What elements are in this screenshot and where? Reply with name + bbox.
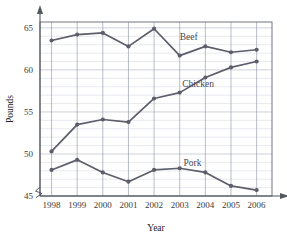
data-point — [203, 170, 207, 174]
data-point — [101, 170, 105, 174]
data-point — [101, 31, 105, 35]
data-point — [75, 158, 79, 162]
y-axis-title: Pounds — [5, 95, 15, 123]
series-labels: BeefChickenPork — [180, 32, 214, 168]
y-tick-label: 45 — [24, 191, 34, 201]
x-tick-label: 1999 — [68, 200, 87, 210]
x-tick-labels: 199819992000200120022003200420052006 — [43, 200, 267, 210]
chart-canvas: 4550556065 19981999200020012002200320042… — [0, 0, 287, 237]
series-label-pork: Pork — [184, 158, 202, 168]
data-point — [178, 166, 182, 170]
y-tick-label: 60 — [24, 65, 34, 75]
data-point — [126, 120, 130, 124]
data-point — [203, 44, 207, 48]
data-point — [152, 168, 156, 172]
data-point — [229, 65, 233, 69]
data-point — [49, 168, 53, 172]
y-tick-label: 50 — [24, 149, 34, 159]
data-point — [126, 180, 130, 184]
data-point — [255, 188, 259, 192]
x-tick-label: 2000 — [94, 200, 113, 210]
x-tick-label: 2005 — [222, 200, 241, 210]
data-point — [229, 50, 233, 54]
data-point — [255, 59, 259, 63]
data-point — [126, 44, 130, 48]
series-label-chicken: Chicken — [182, 79, 214, 89]
x-tick-label: 2004 — [196, 200, 215, 210]
x-tick-label: 1998 — [43, 200, 62, 210]
y-tick-labels: 4550556065 — [24, 23, 34, 201]
x-tick-label: 2006 — [248, 200, 267, 210]
data-point — [75, 122, 79, 126]
data-point — [178, 54, 182, 58]
data-point — [49, 38, 53, 42]
data-point — [101, 117, 105, 121]
line-chart: 4550556065 19981999200020012002200320042… — [0, 0, 287, 237]
x-tick-label: 2001 — [119, 200, 137, 210]
data-point — [152, 27, 156, 31]
data-point — [255, 48, 259, 52]
y-tick-label: 55 — [24, 107, 34, 117]
data-point — [49, 149, 53, 153]
x-tick-label: 2002 — [145, 200, 163, 210]
y-tick-label: 65 — [24, 23, 34, 33]
data-point — [75, 33, 79, 37]
data-point — [152, 96, 156, 100]
series-label-beef: Beef — [180, 32, 199, 42]
x-axis-title: Year — [147, 223, 165, 233]
data-point — [229, 184, 233, 188]
y-axis — [37, 5, 43, 196]
data-point — [178, 91, 182, 95]
x-tick-label: 2003 — [171, 200, 190, 210]
